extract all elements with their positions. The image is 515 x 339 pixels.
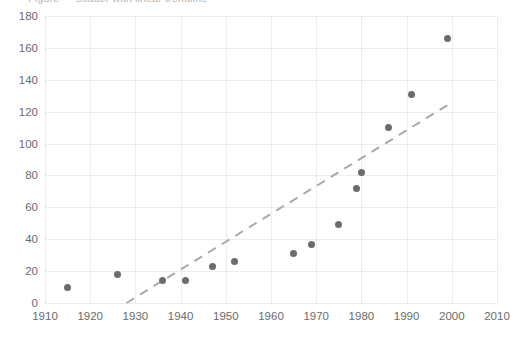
y-axis-tick-label: 100 [0,139,38,150]
data-point [358,169,365,176]
x-axis-tick-label: 2010 [467,310,515,322]
y-axis-tick-label: 20 [0,266,38,277]
data-point [182,277,189,284]
data-point [64,284,71,291]
data-point [114,271,121,278]
y-axis-tick-label: 140 [0,75,38,86]
trendline-segment [126,105,447,303]
y-axis-tick-label: 40 [0,234,38,245]
gridline-vertical [497,16,498,303]
data-point [209,263,216,270]
data-point [308,241,315,248]
chart-title-clipped: Figure — scatter with linear trendline [0,0,506,7]
y-axis-tick-label: 80 [0,170,38,181]
y-axis-tick-label: 160 [0,43,38,54]
y-axis-tick-label: 120 [0,107,38,118]
trendline [45,16,497,304]
y-axis-tick-label: 180 [0,11,38,22]
data-point [444,35,451,42]
data-point [408,91,415,98]
y-axis-tick-label: 60 [0,202,38,213]
chart-title-text: Figure — scatter with linear trendline [28,0,207,4]
y-axis-tick-label: 0 [0,298,38,309]
